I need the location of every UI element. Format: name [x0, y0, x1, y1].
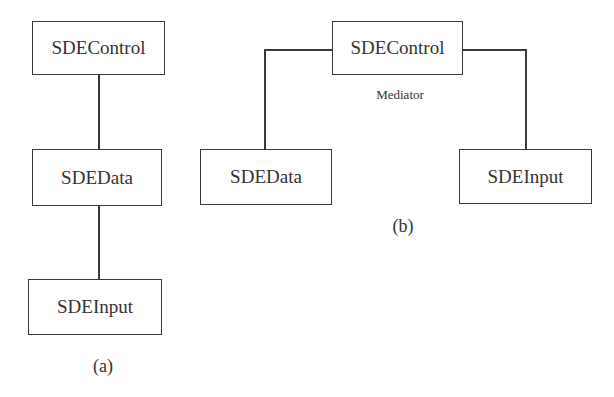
node-label: SDEInput	[57, 296, 133, 318]
edge-b-control-data-vertical	[264, 49, 266, 149]
edge-a-data-input	[98, 206, 100, 279]
node-label: SDEData	[61, 167, 133, 189]
node-label: SDEControl	[351, 37, 445, 59]
node-a-sdeinput: SDEInput	[28, 279, 162, 335]
node-label: SDEInput	[488, 166, 564, 188]
node-b-sdecontrol: SDEControl	[332, 21, 463, 75]
node-b-sdeinput: SDEInput	[459, 149, 592, 204]
node-a-sdedata: SDEData	[32, 149, 162, 206]
node-b-sdedata: SDEData	[200, 149, 332, 205]
edge-a-control-data	[98, 75, 100, 149]
mediator-annotation: Mediator	[376, 87, 424, 103]
node-label: SDEData	[230, 166, 302, 188]
caption-b: (b)	[393, 216, 414, 237]
caption-a: (a)	[93, 356, 113, 377]
edge-b-control-input-vertical	[525, 49, 527, 149]
node-label: SDEControl	[52, 37, 146, 59]
diagram-canvas: SDEControl SDEData SDEInput (a) SDEContr…	[0, 0, 614, 397]
node-a-sdecontrol: SDEControl	[32, 21, 165, 75]
edge-b-control-data-horizontal	[264, 49, 332, 51]
edge-b-control-input-horizontal	[463, 49, 526, 51]
